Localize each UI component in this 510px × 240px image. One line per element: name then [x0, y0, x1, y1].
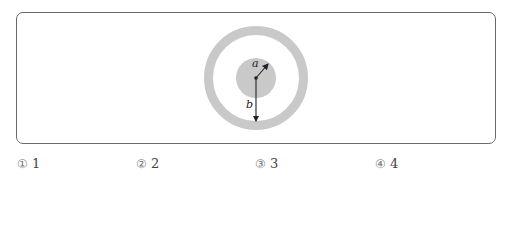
choice-value: 1 [32, 156, 40, 171]
answer-choices: ①1 ②2 ③3 ④4 [0, 152, 510, 176]
choice-marker: ① [17, 157, 28, 171]
choice-value: 4 [390, 156, 398, 171]
choice-2[interactable]: ②2 [136, 156, 159, 171]
choice-1[interactable]: ①1 [17, 156, 40, 171]
choice-3[interactable]: ③3 [255, 156, 278, 171]
label-b: b [246, 98, 253, 111]
choice-value: 3 [270, 156, 278, 171]
label-a: a [252, 57, 259, 70]
choice-marker: ② [136, 157, 147, 171]
choice-value: 2 [151, 156, 159, 171]
choice-marker: ④ [375, 157, 386, 171]
choice-marker: ③ [255, 157, 266, 171]
choice-4[interactable]: ④4 [375, 156, 398, 171]
